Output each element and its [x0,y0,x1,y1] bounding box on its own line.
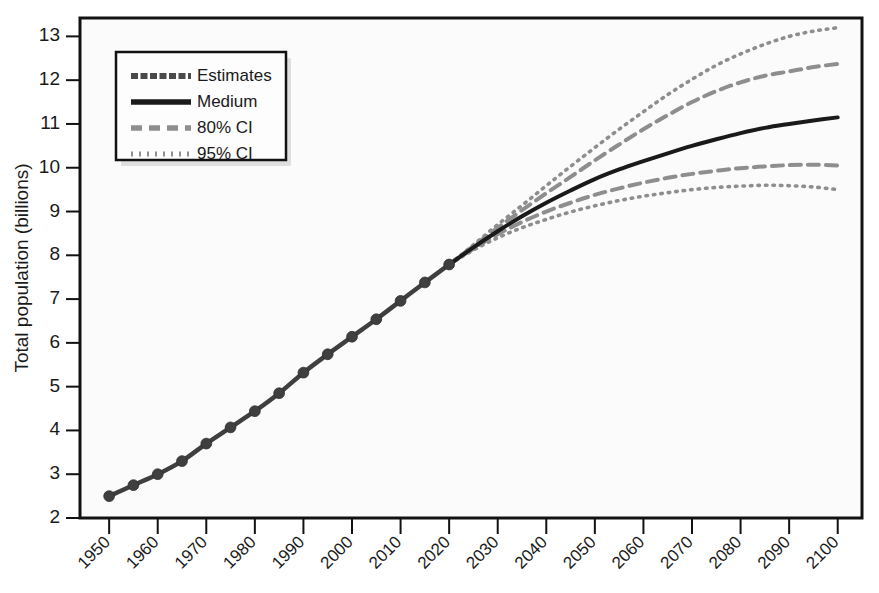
estimate-point [225,422,236,433]
x-tick-label: 2010 [365,532,405,572]
estimate-point [128,480,139,491]
estimate-point [249,406,260,417]
y-axis-label: Total population (billions) [11,163,32,372]
y-tick-label: 5 [49,375,60,396]
y-tick-label: 9 [49,200,60,221]
x-tick-label: 2060 [608,532,648,572]
x-tick-label: 2090 [754,532,794,572]
y-tick-label: 10 [39,156,60,177]
chart-legend: EstimatesMedium80% CI95% CI [116,52,291,166]
estimate-point [395,295,406,306]
y-tick-label: 6 [49,331,60,352]
estimate-point [419,277,430,288]
legend-label: Medium [197,92,257,111]
estimate-point [104,491,115,502]
x-tick-label: 2050 [560,532,600,572]
estimate-point [201,438,212,449]
y-tick-label: 8 [49,243,60,264]
estimate-point [371,314,382,325]
legend-label: 80% CI [197,118,253,137]
estimate-point [298,367,309,378]
x-tick-label: 2030 [462,532,502,572]
estimate-point [347,331,358,342]
x-tick-label: 2040 [511,532,551,572]
estimate-point [274,388,285,399]
x-tick-label: 2020 [414,532,454,572]
x-tick-label: 1960 [122,532,162,572]
y-axis-ticks: 2345678910111213 [39,24,80,527]
y-tick-label: 11 [40,112,60,133]
y-tick-label: 4 [49,418,60,439]
estimate-point [444,259,455,270]
population-projection-figure: 2345678910111213 19501960197019801990200… [0,0,879,593]
y-tick-label: 2 [49,506,60,527]
estimate-point [152,469,163,480]
x-tick-label: 2100 [802,532,842,572]
y-tick-label: 13 [39,24,60,45]
x-axis-ticks: 1950196019701980199020002010202020302040… [74,518,843,573]
x-tick-label: 1980 [220,532,260,572]
estimate-point [177,456,188,467]
legend-label: 95% CI [197,144,253,163]
y-tick-label: 7 [49,287,60,308]
chart-canvas: 2345678910111213 19501960197019801990200… [0,0,879,593]
x-tick-label: 1970 [171,532,211,572]
x-tick-label: 1990 [268,532,308,572]
y-tick-label: 12 [39,68,60,89]
x-tick-label: 2000 [317,532,357,572]
x-tick-label: 1950 [74,532,114,572]
y-tick-label: 3 [49,462,60,483]
estimate-point [322,349,333,360]
x-tick-label: 2080 [705,532,745,572]
x-tick-label: 2070 [657,532,697,572]
legend-label: Estimates [197,66,272,85]
